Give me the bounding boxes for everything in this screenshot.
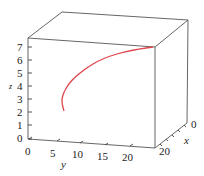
z-tick-0: 0 — [17, 132, 23, 144]
y-ticks: 0 5 10 15 20 y — [25, 137, 134, 170]
z-tick-5: 5 — [17, 67, 23, 79]
z-tick-1: 1 — [17, 119, 23, 131]
x-tick-0: 0 — [191, 118, 197, 130]
y-axis-label: y — [60, 158, 66, 170]
y-tick-5: 5 — [50, 147, 56, 159]
x-ticks: 0 20 x — [159, 118, 197, 157]
bounding-box — [28, 12, 188, 148]
z-tick-2: 2 — [17, 106, 23, 118]
x-axis-label: x — [183, 134, 189, 146]
y-axis-line — [28, 139, 155, 148]
y-tick-20: 20 — [122, 151, 134, 163]
x-tick-20: 20 — [159, 145, 171, 157]
y-tick-15: 15 — [97, 150, 109, 162]
space-curve — [62, 47, 153, 111]
z-tick-6: 6 — [17, 54, 23, 66]
z-tick-3: 3 — [17, 93, 23, 105]
3d-plot: 0 1 2 3 4 5 6 7 z 0 5 10 15 20 y 0 20 x — [0, 0, 204, 176]
z-tick-4: 4 — [17, 80, 23, 92]
y-tick-0: 0 — [25, 145, 31, 157]
z-tick-7: 7 — [17, 41, 23, 53]
z-axis-label: z — [8, 82, 13, 91]
y-tick-10: 10 — [72, 148, 84, 160]
box-back-right-edge — [187, 20, 188, 123]
box-top-face — [28, 12, 188, 47]
